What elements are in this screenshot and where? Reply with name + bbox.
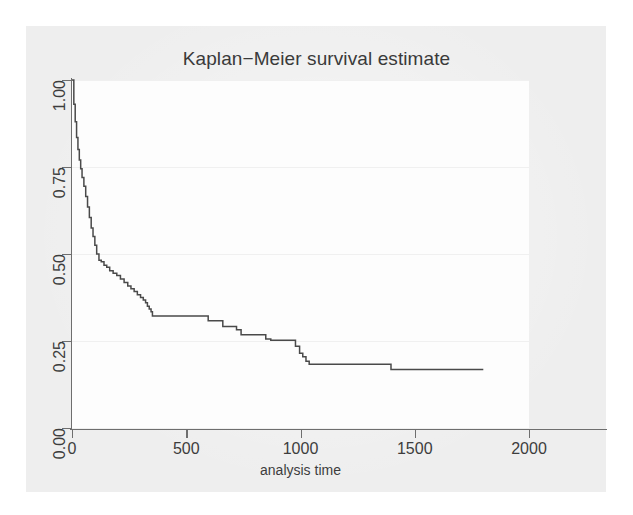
x-tick-label: 500	[173, 440, 200, 458]
y-tick-label: 0.50	[51, 254, 69, 285]
y-tick-label: 1.00	[51, 80, 69, 111]
x-tick-label: 1000	[283, 440, 319, 458]
y-tick-label: 0.75	[51, 167, 69, 198]
x-axis-title: analysis time	[72, 462, 529, 478]
x-tick-mark	[72, 430, 73, 438]
x-tick-label: 1500	[397, 440, 433, 458]
survival-curve-path	[72, 80, 483, 370]
plot-area	[72, 80, 529, 428]
x-tick-label: 2000	[511, 440, 547, 458]
x-axis-line	[70, 429, 607, 430]
x-tick-mark	[301, 430, 302, 438]
y-axis-line	[71, 78, 72, 430]
survival-curve	[72, 80, 529, 428]
y-tick-label: 0.00	[51, 428, 69, 459]
x-tick-mark	[415, 430, 416, 438]
figure-root: Kaplan−Meier survival estimate 0.000.250…	[0, 0, 633, 515]
y-tick-label: 0.25	[51, 341, 69, 372]
x-tick-mark	[529, 430, 530, 438]
x-tick-mark	[186, 430, 187, 438]
x-tick-label: 0	[68, 440, 77, 458]
chart-title: Kaplan−Meier survival estimate	[0, 48, 633, 70]
